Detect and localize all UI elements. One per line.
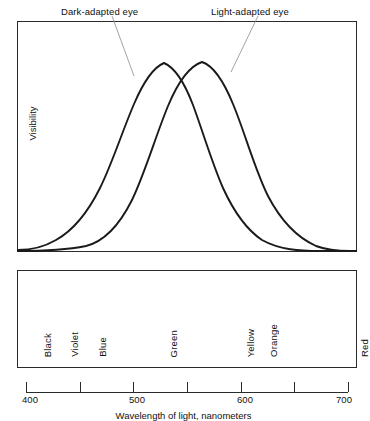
x-tick-650 [294,382,295,392]
x-tick-label-700: 700 [336,394,352,405]
x-tick-400 [26,382,27,392]
plot-frame: Visibility [17,21,357,252]
color-label-blue: Blue [97,337,108,357]
x-tick-600 [241,382,242,392]
color-label-red: Red [359,339,370,357]
color-label-black: Black [42,333,53,357]
color-name-band: Black Violet Blue Green Yellow Orange Re… [17,270,357,368]
color-label-green: Green [168,330,179,357]
annotation-label-light-adapted-eye: Light-adapted eye [211,6,289,17]
x-axis-label: Wavelength of light, nanometers [0,410,367,421]
annotation-label-dark-adapted-eye: Dark-adapted eye [61,6,138,17]
y-axis-label: Visibility [27,84,38,164]
color-label-violet: Violet [69,332,80,357]
color-label-yellow: Yellow [245,329,256,357]
x-tick-label-400: 400 [22,394,38,405]
x-axis-line [26,392,348,393]
color-label-orange: Orange [268,324,279,357]
x-axis: 400 500 600 700 Wavelength of light, nan… [0,374,367,420]
x-tick-450 [80,382,81,392]
x-tick-700 [348,382,349,392]
x-tick-label-600: 600 [237,394,253,405]
x-tick-label-500: 500 [129,394,145,405]
x-tick-550 [187,382,188,392]
x-tick-500 [133,382,134,392]
